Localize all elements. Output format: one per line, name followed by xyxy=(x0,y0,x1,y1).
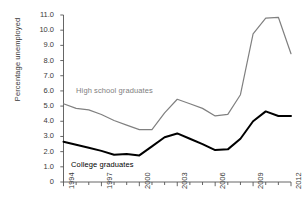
axis-lines xyxy=(64,15,292,182)
series-lines xyxy=(64,17,292,155)
y-axis-ticks xyxy=(60,15,63,182)
plot-area xyxy=(0,0,303,223)
series-line-college-graduates xyxy=(64,111,292,155)
unemployment-line-chart: Percentage unemployed 01.02.03.04.05.06.… xyxy=(0,0,303,223)
series-line-high-school-graduates xyxy=(64,17,292,129)
x-axis-ticks xyxy=(64,182,292,186)
